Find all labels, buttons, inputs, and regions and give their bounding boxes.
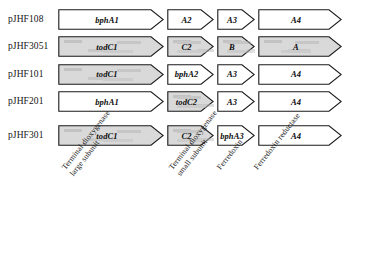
gene-arrow: todC1	[58, 36, 164, 57]
plasmid-label: pJHF201	[8, 96, 64, 106]
plasmid-label: pJHF301	[8, 130, 64, 140]
gene-arrow: A3	[217, 9, 255, 30]
gene-arrow: A	[258, 36, 342, 57]
plasmid-label: pJHF101	[8, 69, 64, 79]
gene-arrow: C2	[167, 36, 214, 57]
gene-arrow: A2	[167, 9, 214, 30]
gene-arrow: A4	[258, 9, 342, 30]
plasmid-label: pJHF108	[8, 14, 64, 24]
gene-arrow: A3	[217, 91, 255, 112]
gene-arrow: bphA2	[167, 64, 214, 85]
gene-arrow: todC2	[167, 91, 214, 112]
gene-arrow: bphA1	[58, 9, 164, 30]
gene-arrow: bphA1	[58, 91, 164, 112]
gene-arrow: A4	[258, 91, 342, 112]
gene-cluster-figure: pJHF108bphA1A2A3A4pJHF3051todC1C2BApJHF1…	[0, 0, 366, 257]
gene-arrow: A4	[258, 64, 342, 85]
gene-arrow: todC1	[58, 64, 164, 85]
plasmid-label: pJHF3051	[8, 41, 64, 51]
gene-arrow: B	[217, 36, 255, 57]
gene-arrow: A3	[217, 64, 255, 85]
